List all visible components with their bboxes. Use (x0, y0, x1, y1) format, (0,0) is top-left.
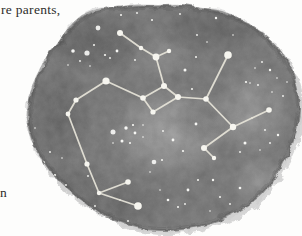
star-dot (89, 65, 91, 67)
constellation-star-node (97, 191, 101, 195)
star-dot (152, 160, 157, 165)
star-dot (65, 184, 67, 186)
star-dot (264, 129, 266, 131)
star-dot (177, 206, 179, 208)
constellation-star-node (266, 107, 272, 113)
star-dot (111, 130, 116, 135)
star-dot (127, 220, 129, 222)
star-dot (49, 151, 51, 153)
star-dot (132, 124, 134, 126)
constellation-star-node (224, 51, 232, 59)
star-dot (239, 187, 242, 190)
star-dot (61, 157, 63, 159)
star-dot (96, 26, 101, 31)
star-dot (129, 142, 131, 144)
star-dot (36, 185, 38, 187)
star-dot (219, 196, 221, 198)
star-dot (112, 142, 114, 144)
constellation-star-node (66, 112, 71, 117)
star-dot (197, 179, 199, 181)
constellation-illustration (0, 0, 302, 236)
star-dot (215, 17, 217, 19)
star-dot (93, 44, 95, 46)
constellation-star-node (201, 145, 207, 151)
star-dot (232, 34, 234, 36)
constellation-star-node (102, 77, 109, 84)
star-dot (245, 81, 247, 83)
star-dot (151, 19, 153, 21)
star-dot (161, 159, 163, 161)
star-dot (84, 50, 89, 55)
star-dot (54, 192, 56, 194)
constellation-star-node (150, 109, 155, 114)
star-dot (259, 149, 261, 151)
star-dot (121, 140, 124, 143)
star-dot (94, 205, 96, 207)
star-dot (239, 151, 241, 153)
star-dot (261, 61, 263, 63)
star-dot (109, 57, 111, 59)
star-dot (116, 50, 119, 53)
star-dot (195, 56, 197, 58)
star-dot (196, 34, 198, 36)
star-dot (271, 91, 273, 93)
star-dot (184, 203, 186, 205)
star-dot (142, 124, 144, 126)
star-dot (42, 177, 44, 179)
constellation-star-node (73, 97, 78, 102)
constellation-star-node (134, 202, 142, 210)
constellation-star-node (167, 49, 171, 53)
star-dot (172, 139, 175, 142)
star-dot (206, 41, 208, 43)
star-dot (104, 54, 106, 56)
constellation-star-node (212, 156, 216, 160)
star-dot (249, 82, 251, 84)
star-dot (67, 64, 69, 66)
star-dot (187, 189, 190, 192)
star-dot (229, 203, 231, 205)
star-dot (87, 175, 89, 177)
constellation-star-node (203, 96, 209, 102)
star-dot (244, 142, 247, 145)
star-dot (277, 134, 279, 136)
star-dot (149, 171, 151, 173)
book-page-fragment: re parents, n (0, 0, 302, 236)
star-dot (159, 189, 161, 191)
star-dot (286, 81, 288, 83)
star-dot (209, 210, 211, 212)
star-dot (182, 150, 184, 152)
constellation-star-node (84, 161, 89, 166)
star-dot (34, 127, 36, 129)
star-dot (282, 95, 284, 97)
star-dot (195, 123, 198, 126)
star-dot (191, 88, 193, 90)
star-dot (179, 13, 181, 15)
constellation-star-node (139, 46, 143, 50)
star-dot (167, 199, 170, 202)
constellation-star-node (140, 95, 146, 101)
star-dot (162, 130, 164, 132)
star-dot (71, 49, 75, 53)
constellation-star-node (153, 54, 160, 61)
star-dot (136, 12, 138, 14)
star-dot (257, 84, 259, 86)
star-dot (142, 136, 144, 138)
star-dot (120, 14, 122, 16)
constellation-star-node (161, 83, 167, 89)
constellation-star-node (175, 94, 181, 100)
constellation-star-node (117, 30, 123, 36)
constellation-star-node (125, 179, 131, 185)
star-dot (134, 59, 136, 61)
star-dot (184, 69, 187, 72)
constellation-star-node (230, 124, 236, 130)
star-dot (269, 69, 271, 71)
star-dot (134, 132, 137, 135)
star-dot (24, 129, 26, 131)
star-dot (276, 77, 278, 79)
star-dot (254, 67, 256, 69)
star-dot (269, 142, 271, 144)
star-dot (79, 60, 81, 62)
star-dot (124, 126, 127, 129)
star-dot (32, 157, 34, 159)
star-dot (212, 179, 214, 181)
